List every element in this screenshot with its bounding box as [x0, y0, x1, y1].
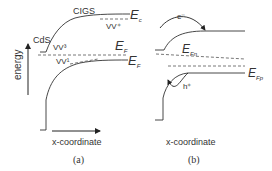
- cds-label: CdS: [33, 35, 51, 45]
- defect-label-vv3: VV³: [53, 43, 67, 52]
- defect-label-vv1: VV¹: [56, 57, 70, 66]
- cigs-label: CIGS: [73, 6, 95, 16]
- x-coordinate-label-b: x-coordinate: [166, 137, 216, 147]
- band-diagram: energy CIGS CdS VV⁺ VV³ VV¹ Ec EF EF x-c…: [0, 0, 272, 171]
- panel-b: e⁻ EFn h⁺ EFp x-coordinate (b): [155, 12, 264, 166]
- hole-label: h⁺: [183, 82, 191, 91]
- efn-label: EFn: [182, 42, 198, 57]
- efp-label: EFp: [248, 66, 264, 81]
- caption-b: (b): [188, 154, 200, 166]
- conduction-band-line-b: [155, 31, 245, 50]
- x-coordinate-label-a: x-coordinate: [52, 137, 102, 147]
- panel-a: energy CIGS CdS VV⁺ VV³ VV¹ Ec EF EF x-c…: [12, 6, 142, 166]
- ef-label-low: EF: [128, 53, 141, 69]
- efn-dashed: [156, 54, 245, 59]
- ef-label-mid: EF: [115, 38, 128, 54]
- electron-label: e⁻: [177, 12, 185, 21]
- ec-label: Ec: [130, 7, 142, 23]
- caption-a: (a): [73, 154, 84, 166]
- energy-label: energy: [12, 49, 23, 80]
- defect-label-vv-plus: VV⁺: [106, 22, 121, 31]
- valence-band-line: [40, 60, 128, 130]
